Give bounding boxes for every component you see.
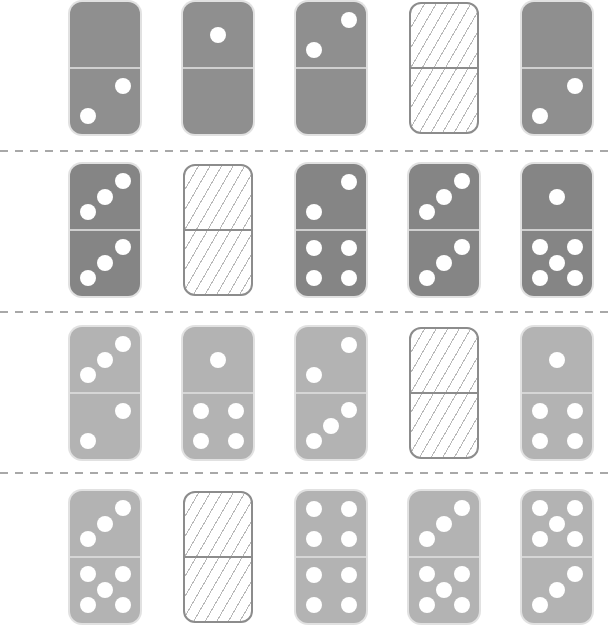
pip-dot (454, 500, 470, 516)
pip-dot (454, 239, 470, 255)
domino-top-half (183, 2, 253, 68)
pip-dot (115, 403, 131, 419)
pip-dot (567, 239, 583, 255)
domino-divider (183, 67, 253, 69)
pip-dot (532, 597, 548, 613)
domino-tile (296, 164, 366, 296)
domino-divider (296, 392, 366, 394)
pip-dot (341, 270, 357, 286)
domino-top-half (411, 4, 477, 68)
row-separator (0, 150, 608, 152)
pip-dot (436, 516, 452, 532)
domino-row-3 (0, 327, 608, 461)
domino-bottom-half (522, 68, 592, 134)
domino-row-1 (0, 2, 608, 136)
domino-tile (522, 2, 592, 134)
domino-top-half (70, 491, 140, 557)
pip-dot (80, 204, 96, 220)
domino-row-2 (0, 164, 608, 298)
domino-divider (522, 229, 592, 231)
domino-bottom-half (522, 393, 592, 459)
pip-dot (532, 531, 548, 547)
pip-dot (549, 189, 565, 205)
domino-bottom-half (296, 557, 366, 623)
domino-top-half (409, 164, 479, 230)
domino-tile (183, 2, 253, 134)
domino-divider (296, 556, 366, 558)
domino-top-half (70, 2, 140, 68)
pip-dot (306, 42, 322, 58)
domino-bottom-half (70, 557, 140, 623)
domino-bottom-half (70, 230, 140, 296)
row-separator (0, 472, 608, 474)
domino-bottom-half (296, 68, 366, 134)
domino-divider (296, 67, 366, 69)
pip-dot (567, 531, 583, 547)
pip-dot (341, 597, 357, 613)
pip-dot (80, 566, 96, 582)
domino-top-half (522, 327, 592, 393)
pip-dot (532, 108, 548, 124)
pip-dot (341, 501, 357, 517)
pip-dot (80, 597, 96, 613)
pip-dot (210, 352, 226, 368)
pip-dot (97, 352, 113, 368)
domino-tile (296, 327, 366, 459)
pip-dot (341, 531, 357, 547)
domino-divider (70, 556, 140, 558)
missing-domino-slot[interactable] (409, 327, 479, 459)
domino-tile (296, 2, 366, 134)
pip-dot (532, 433, 548, 449)
pip-dot (193, 403, 209, 419)
domino-top-half (183, 327, 253, 393)
domino-top-half (522, 491, 592, 557)
pip-dot (306, 240, 322, 256)
domino-bottom-half (522, 230, 592, 296)
pip-dot (306, 433, 322, 449)
missing-domino-slot[interactable] (183, 491, 253, 623)
domino-top-half (411, 329, 477, 393)
domino-divider (409, 556, 479, 558)
domino-top-half (522, 164, 592, 230)
pip-dot (419, 566, 435, 582)
pip-dot (115, 78, 131, 94)
pip-dot (341, 12, 357, 28)
pip-dot (341, 337, 357, 353)
pip-dot (306, 270, 322, 286)
domino-bottom-half (296, 393, 366, 459)
pip-dot (193, 433, 209, 449)
missing-domino-slot[interactable] (409, 2, 479, 134)
domino-top-half (409, 491, 479, 557)
domino-divider (70, 229, 140, 231)
domino-divider (296, 229, 366, 231)
pip-dot (115, 500, 131, 516)
pip-dot (419, 270, 435, 286)
domino-divider (70, 67, 140, 69)
pip-dot (436, 255, 452, 271)
domino-top-half (296, 327, 366, 393)
pip-dot (115, 566, 131, 582)
domino-top-half (185, 493, 251, 557)
pip-dot (567, 433, 583, 449)
pip-dot (549, 255, 565, 271)
row-separator (0, 311, 608, 313)
domino-bottom-half (409, 557, 479, 623)
pip-dot (341, 402, 357, 418)
pip-dot (97, 189, 113, 205)
pip-dot (454, 597, 470, 613)
domino-divider (411, 67, 477, 69)
domino-divider (522, 67, 592, 69)
domino-bottom-half (522, 557, 592, 623)
domino-divider (185, 556, 251, 558)
pip-dot (454, 173, 470, 189)
pip-dot (228, 433, 244, 449)
pip-dot (532, 270, 548, 286)
pip-dot (341, 240, 357, 256)
missing-domino-slot[interactable] (183, 164, 253, 296)
domino-divider (522, 392, 592, 394)
domino-tile (70, 2, 140, 134)
domino-top-half (296, 2, 366, 68)
domino-tile (70, 164, 140, 296)
domino-bottom-half (70, 393, 140, 459)
pip-dot (436, 189, 452, 205)
